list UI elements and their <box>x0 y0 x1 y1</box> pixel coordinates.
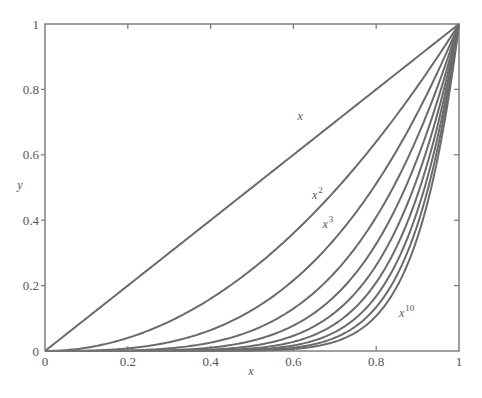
x-tick-label: 0 <box>42 354 49 369</box>
x-tick-label: 0.6 <box>285 354 302 369</box>
y-tick-label: 0 <box>33 344 40 359</box>
x-tick-label: 0.2 <box>120 354 136 369</box>
power-curves-chart: 00.20.40.60.8100.20.40.60.81 x y xx2x3x1… <box>0 0 482 398</box>
x-tick-label: 1 <box>456 354 463 369</box>
y-tick-label: 1 <box>33 17 40 32</box>
curve-label: x10 <box>398 303 415 320</box>
x-axis-label: x <box>247 364 254 378</box>
curves <box>45 24 459 351</box>
curve-x <box>45 24 459 351</box>
curve-label: x2 <box>311 185 323 202</box>
y-tick-label: 0.6 <box>23 147 40 162</box>
x-tick-label: 0.8 <box>368 354 384 369</box>
y-tick-label: 0.4 <box>23 213 40 228</box>
y-axis-label: y <box>16 178 23 192</box>
y-tick-label: 0.8 <box>23 82 39 97</box>
curve-label: x <box>297 109 304 123</box>
x-tick-label: 0.4 <box>202 354 219 369</box>
curve-label: x3 <box>321 214 333 231</box>
y-tick-label: 0.2 <box>23 278 39 293</box>
